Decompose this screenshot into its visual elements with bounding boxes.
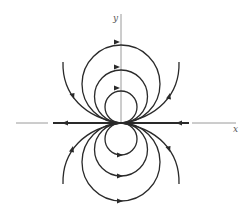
arrow-left-icon	[176, 121, 182, 126]
arrow-down-icon	[166, 146, 171, 152]
y-axis-label: y	[112, 13, 119, 23]
arrow-right-icon	[117, 199, 123, 204]
arrow-right-icon	[117, 153, 123, 158]
phase-portrait-diagram: y x	[0, 0, 251, 210]
x-axis-label: x	[233, 124, 238, 134]
arrow-up-icon	[69, 146, 74, 153]
axes: y x	[16, 13, 238, 134]
arrow-right-icon	[114, 65, 120, 70]
flow-arrows	[62, 40, 182, 204]
lower-loops	[82, 123, 160, 201]
lower-loop-large	[82, 123, 160, 201]
arrow-right-icon	[117, 174, 123, 179]
arrow-right-icon	[114, 86, 120, 91]
lower-loop-medium	[95, 123, 148, 176]
lower-loop-small	[105, 123, 137, 155]
arrow-left-icon	[62, 121, 68, 126]
arrow-down-icon	[70, 93, 75, 99]
arrow-right-icon	[114, 40, 120, 45]
